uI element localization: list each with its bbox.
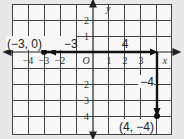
coordinate-plane: −4 −3 −2 O 1 2 3 x y 2 1 −2 −3 −4 (−3, 0… <box>0 0 184 139</box>
x-tick-label: 2 <box>123 55 128 66</box>
x-axis-arrow-right-icon <box>173 49 180 55</box>
x-tick-label: −2 <box>55 55 66 66</box>
grid-panel <box>12 4 172 135</box>
x-tick-label: −4 <box>23 55 34 66</box>
segment-sublabel: −3 <box>64 37 78 51</box>
point-end-label: (4, −4) <box>119 120 154 134</box>
x-tick-label: 3 <box>139 55 144 66</box>
origin-label: O <box>82 55 89 66</box>
y-tick-label: −3 <box>78 95 89 106</box>
y-axis-arrow-down-icon <box>90 132 96 139</box>
x-tick-label: 1 <box>107 55 112 66</box>
point-start-label: (−3, 0) <box>7 37 42 51</box>
vertical-segment-label: −4 <box>140 75 154 89</box>
x-tick-label: −3 <box>39 55 50 66</box>
y-axis-arrow-up-icon <box>90 0 96 7</box>
horizontal-segment-label: 4 <box>122 37 129 51</box>
y-tick-label: 2 <box>84 15 89 26</box>
y-tick-label: −4 <box>78 111 89 122</box>
y-tick-label: 1 <box>84 31 89 42</box>
x-axis-label: x <box>162 55 168 66</box>
y-tick-label: −2 <box>78 79 89 90</box>
point-end <box>154 113 160 119</box>
y-axis-label: y <box>105 3 111 14</box>
